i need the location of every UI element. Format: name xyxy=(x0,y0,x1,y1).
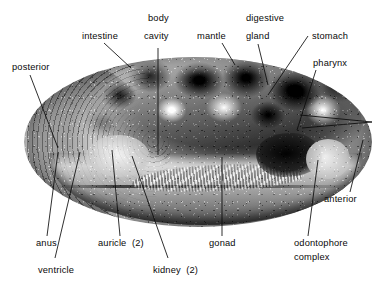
anatomical-figure: posterior intestine body cavity mantle d… xyxy=(0,0,383,291)
label-intestine: intestine xyxy=(82,31,118,42)
leader-ventricle xyxy=(55,152,80,258)
leader-anus xyxy=(47,152,58,236)
label-ventricle: ventricle xyxy=(38,265,74,276)
label-digestive-line2: gland xyxy=(246,31,270,42)
leader-anterior xyxy=(350,140,363,192)
leader-pharynx-b xyxy=(300,115,372,122)
label-body-cavity-line1: body xyxy=(148,13,169,24)
label-mantle: mantle xyxy=(197,31,226,42)
label-anterior: anterior xyxy=(324,194,357,205)
leader-odontophore xyxy=(308,160,318,236)
label-stomach: stomach xyxy=(312,31,348,42)
leader-digestive xyxy=(258,44,268,85)
label-kidney: kidney (2) xyxy=(153,265,198,276)
label-odontophore-line1: odontophore xyxy=(294,238,348,249)
leader-pharynx-c xyxy=(302,122,372,128)
leader-pharynx xyxy=(297,70,316,130)
leader-stomach xyxy=(268,36,308,95)
label-gonad: gonad xyxy=(209,238,236,249)
label-anus: anus xyxy=(36,238,57,249)
leader-auricle xyxy=(112,150,120,236)
label-digestive-line1: digestive xyxy=(246,13,284,24)
label-auricle: auricle (2) xyxy=(98,238,144,249)
leader-intestine xyxy=(104,43,131,68)
label-pharynx: pharynx xyxy=(313,58,347,69)
leader-mantle xyxy=(222,43,235,65)
label-odontophore-line2: complex xyxy=(294,252,330,263)
label-posterior: posterior xyxy=(12,62,50,73)
leader-posterior xyxy=(30,75,58,148)
label-body-cavity-line2: cavity xyxy=(144,31,169,42)
